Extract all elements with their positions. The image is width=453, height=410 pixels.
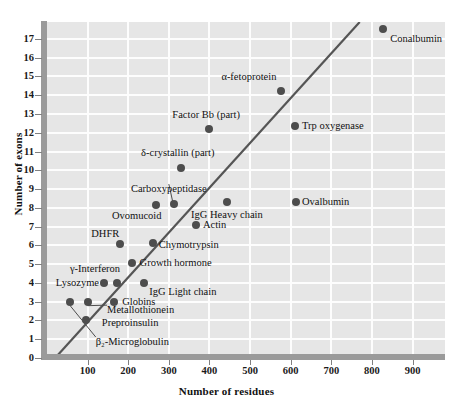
data-point[interactable] — [379, 25, 387, 33]
gridline-horizontal — [47, 244, 445, 246]
y-tick-mark — [35, 245, 42, 246]
gridline-vertical — [371, 22, 373, 358]
gridline-vertical — [208, 22, 210, 358]
x-tick-label: 400 — [189, 366, 229, 377]
gridline-vertical — [290, 22, 292, 358]
data-point-label: Globins — [122, 296, 155, 307]
data-point-label: Chymotrypsin — [159, 240, 219, 251]
gridline-vertical — [412, 22, 414, 358]
data-point[interactable] — [66, 298, 74, 306]
x-tick-label: 100 — [68, 366, 108, 377]
data-point-label: IgG Heavy chain — [191, 210, 263, 221]
y-tick-mark — [35, 189, 42, 190]
y-tick-mark — [35, 58, 42, 59]
data-point-label: α-fetoprotein — [221, 72, 276, 83]
x-tick-label: 700 — [311, 366, 351, 377]
data-point-label: Preproinsulin — [102, 318, 159, 329]
y-tick-label: 3 — [14, 297, 34, 308]
y-tick-mark — [35, 227, 42, 228]
y-tick-mark — [35, 152, 42, 153]
data-point-label: Lysozyme — [56, 278, 99, 289]
y-tick-mark — [35, 320, 42, 321]
data-point-label: Conalbumin — [390, 34, 442, 45]
y-tick-mark — [35, 264, 42, 265]
data-point-label: IgG Light chain — [149, 287, 216, 298]
y-tick-mark — [35, 39, 42, 40]
gridline-horizontal — [47, 151, 445, 153]
x-tick-label: 900 — [393, 366, 433, 377]
data-point[interactable] — [84, 298, 92, 306]
data-point-label: DHFR — [91, 229, 119, 240]
data-point-label: Growth hormone — [140, 258, 212, 269]
plot-area: β₂-MicroglobulinPreproinsulinMetallothio… — [47, 22, 445, 358]
data-point[interactable] — [292, 198, 300, 206]
data-point-label: β₂-Microglobulin — [96, 337, 169, 348]
gridline-horizontal — [47, 113, 445, 115]
y-tick-label: 4 — [14, 278, 34, 289]
y-tick-mark — [35, 133, 42, 134]
y-tick-mark — [35, 283, 42, 284]
x-tick-label: 800 — [352, 366, 392, 377]
data-point[interactable] — [152, 201, 160, 209]
x-tick-label: 200 — [108, 366, 148, 377]
y-tick-label: 17 — [14, 34, 34, 45]
data-point[interactable] — [100, 279, 108, 287]
gridline-vertical — [87, 22, 89, 358]
gridline-horizontal — [47, 188, 445, 190]
y-tick-label: 5 — [14, 259, 34, 270]
x-axis-title: Number of residues — [0, 385, 453, 397]
y-tick-mark — [35, 170, 42, 171]
data-point[interactable] — [291, 122, 299, 130]
data-point-label: γ-Interferon — [70, 264, 120, 275]
scatter-chart-figure: β₂-MicroglobulinPreproinsulinMetallothio… — [0, 0, 453, 410]
y-tick-mark — [35, 358, 42, 359]
y-tick-label: 0 — [14, 353, 34, 364]
x-tick-label: 300 — [149, 366, 189, 377]
data-point-label: Factor Bb (part) — [172, 110, 240, 121]
data-point[interactable] — [128, 259, 136, 267]
gridline-vertical — [330, 22, 332, 358]
gridline-horizontal — [47, 169, 445, 171]
data-point-label: Ovalbumin — [302, 197, 349, 208]
data-point[interactable] — [113, 279, 121, 287]
y-tick-mark — [35, 208, 42, 209]
label-leader-line — [88, 305, 107, 306]
y-tick-mark — [35, 95, 42, 96]
gridline-horizontal — [47, 38, 445, 40]
y-tick-mark — [35, 339, 42, 340]
x-tick-label: 500 — [230, 366, 270, 377]
y-tick-label: 16 — [14, 53, 34, 64]
y-tick-label: 1 — [14, 334, 34, 345]
y-tick-label: 2 — [14, 315, 34, 326]
data-point-label: Ovomucoid — [112, 211, 162, 222]
data-point[interactable] — [116, 240, 124, 248]
data-point[interactable] — [223, 198, 231, 206]
gridline-horizontal — [47, 94, 445, 96]
gridline-horizontal — [47, 301, 445, 303]
y-axis — [41, 21, 47, 360]
data-point-label: Actin — [203, 219, 226, 230]
gridline-horizontal — [47, 132, 445, 134]
data-point[interactable] — [140, 279, 148, 287]
y-tick-label: 15 — [14, 71, 34, 82]
data-point-label: Carboxypeptidase — [131, 184, 207, 195]
x-axis — [41, 354, 445, 360]
data-point[interactable] — [277, 87, 285, 95]
y-tick-mark — [35, 114, 42, 115]
gridline-horizontal — [47, 57, 445, 59]
x-tick-label: 600 — [271, 366, 311, 377]
y-tick-mark — [35, 302, 42, 303]
data-point-label: δ-crystallin (part) — [141, 148, 214, 159]
y-axis-title: Number of exons — [12, 99, 24, 249]
y-tick-mark — [35, 76, 42, 77]
data-point-label: Trp oxygenase — [302, 121, 364, 132]
